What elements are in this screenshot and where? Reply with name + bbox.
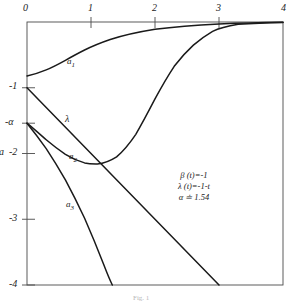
chart-canvas [0, 0, 290, 305]
x-tick-label-4: 4 [281, 3, 286, 13]
curve-label-lambda: λ [65, 114, 69, 124]
curve-label-a3-sub: 3 [71, 204, 75, 212]
curve-a1 [27, 22, 283, 76]
y-axis-label: a [0, 147, 4, 157]
curve-label-a2: a2 [69, 152, 77, 164]
curve-label-a3: a3 [66, 200, 74, 212]
y-tick-label-minus2: -2 [9, 147, 17, 157]
x-tick-label-0: 0 [23, 3, 28, 13]
x-axis-ticks [91, 17, 219, 28]
annotation-line-alpha: α ≐ 1.54 [178, 192, 210, 203]
annotation-line-lambda: λ (t)=-1-t [178, 181, 210, 192]
curve-label-a2-sub: 2 [74, 156, 78, 164]
y-tick-label-minus1: -1 [9, 81, 17, 91]
x-tick-label-2: 2 [152, 3, 157, 13]
x-axis-label: t [152, 0, 155, 1]
y-tick-label-minus3: -3 [9, 213, 17, 223]
x-tick-label-3: 3 [216, 3, 221, 13]
annotation-line-beta: β (t)=-1 [178, 170, 210, 181]
figure-caption: Fig. 1 [133, 294, 149, 302]
curve-a2 [27, 22, 283, 164]
x-tick-label-1: 1 [88, 3, 93, 13]
y-tick-label-minus-alpha: -α [5, 117, 14, 127]
curve-label-a1: a1 [67, 57, 75, 69]
figure-container: 0 1 2 3 4 t -1 -α -2 -3 -4 a a1 a2 a3 λ … [0, 0, 290, 305]
y-axis-ticks [22, 88, 35, 285]
curve-label-a1-sub: 1 [72, 61, 76, 69]
y-tick-label-minus4: -4 [9, 279, 17, 289]
curve-group [27, 22, 283, 285]
parameter-annotation: β (t)=-1 λ (t)=-1-t α ≐ 1.54 [178, 170, 210, 204]
